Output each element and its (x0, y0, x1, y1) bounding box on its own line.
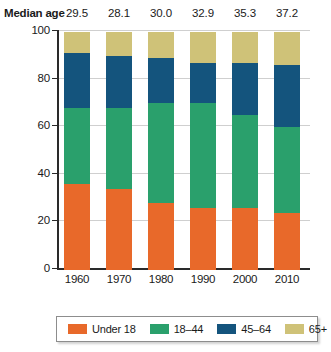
bar-1980[interactable] (148, 32, 174, 270)
bar-segment-18-44 (148, 103, 174, 203)
gridline-40 (57, 173, 310, 174)
y-tick-label-60: 60 (20, 119, 50, 131)
legend-item-under18[interactable]: Under 18 (68, 323, 136, 335)
bar-segment-under18 (106, 189, 132, 270)
chart-plot-area: 100 80 60 40 20 0 (0, 24, 331, 306)
legend-label-65plus: 65+ (309, 323, 327, 335)
legend-swatch-under18 (68, 324, 87, 334)
legend-swatch-18-44 (150, 324, 169, 334)
gridline-20 (57, 220, 310, 221)
bar-segment-18-44 (64, 108, 90, 184)
bar-segment-45-64 (148, 58, 174, 103)
legend-item-65plus[interactable]: 65+ (285, 323, 327, 335)
bar-segment-under18 (232, 208, 258, 270)
bar-segment-45-64 (106, 56, 132, 108)
legend-label-under18: Under 18 (92, 323, 136, 335)
bar-1970[interactable] (106, 32, 132, 270)
gridline-100 (57, 30, 310, 31)
bar-segment-45-64 (232, 63, 258, 115)
x-axis-line (57, 268, 310, 270)
median-age-header-row: Median age 29.5 28.1 30.0 32.9 35.3 37.2 (0, 6, 331, 24)
bar-segment-18-44 (274, 127, 300, 213)
gridline-80 (57, 78, 310, 79)
median-age-value-1980: 30.0 (141, 7, 181, 19)
x-tick-label-1980: 1980 (138, 273, 184, 285)
legend-item-45-64[interactable]: 45–64 (217, 323, 271, 335)
median-age-value-1970: 28.1 (99, 7, 139, 19)
bar-1990[interactable] (190, 32, 216, 270)
x-tick-label-1970: 1970 (96, 273, 142, 285)
bar-segment-65plus (232, 32, 258, 63)
median-age-value-1960: 29.5 (57, 7, 97, 19)
bar-segment-under18 (190, 208, 216, 270)
legend-swatch-65plus (285, 324, 304, 334)
bar-segment-65plus (64, 32, 90, 53)
y-tick-label-100: 100 (20, 24, 50, 36)
bar-segment-45-64 (274, 65, 300, 127)
bar-segment-under18 (148, 203, 174, 270)
bar-segment-65plus (190, 32, 216, 63)
bar-segment-45-64 (64, 53, 90, 108)
bar-segment-under18 (64, 184, 90, 270)
gridline-60 (57, 125, 310, 126)
x-tick-label-1990: 1990 (180, 273, 226, 285)
x-tick-label-2010: 2010 (264, 273, 310, 285)
legend-item-18-44[interactable]: 18–44 (150, 323, 204, 335)
y-tick-label-80: 80 (20, 72, 50, 84)
bar-segment-65plus (274, 32, 300, 65)
median-age-label: Median age (4, 7, 65, 19)
y-tick-label-40: 40 (20, 167, 50, 179)
bar-segment-45-64 (190, 63, 216, 103)
bar-segment-65plus (148, 32, 174, 58)
bar-2000[interactable] (232, 32, 258, 270)
legend-swatch-45-64 (217, 324, 236, 334)
x-tick-label-2000: 2000 (222, 273, 268, 285)
median-age-value-1990: 32.9 (183, 7, 223, 19)
median-age-value-2000: 35.3 (225, 7, 265, 19)
bar-1960[interactable] (64, 32, 90, 270)
chart-legend: Under 18 18–44 45–64 65+ (56, 316, 318, 342)
x-tick-label-1960: 1960 (54, 273, 100, 285)
median-age-value-2010: 37.2 (267, 7, 307, 19)
bar-segment-18-44 (232, 115, 258, 208)
y-tick-label-0: 0 (20, 262, 50, 274)
bar-segment-18-44 (190, 103, 216, 208)
bar-segment-18-44 (106, 108, 132, 189)
y-axis-line (57, 30, 59, 269)
bar-2010[interactable] (274, 32, 300, 270)
bar-segment-under18 (274, 213, 300, 270)
y-tick-label-20: 20 (20, 214, 50, 226)
legend-label-18-44: 18–44 (174, 323, 204, 335)
bar-segment-65plus (106, 32, 132, 56)
legend-label-45-64: 45–64 (241, 323, 271, 335)
